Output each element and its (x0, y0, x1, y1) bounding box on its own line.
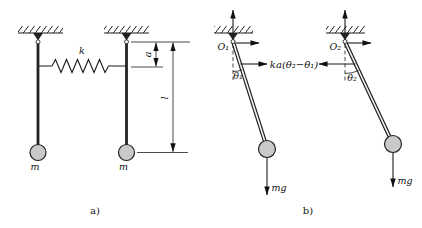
weight-right-label: mg (398, 175, 413, 186)
mass-right-b (385, 136, 402, 153)
pivot-pin-right-a (125, 40, 129, 44)
caption-b: b) (303, 205, 313, 216)
mass-left-b (259, 141, 276, 158)
hatch-left-a (18, 26, 63, 33)
figure-background (0, 0, 422, 228)
pivot-pin-right-b (343, 40, 347, 44)
mass-left-a (30, 145, 46, 161)
mass-right-label-a: m (119, 161, 128, 172)
dim-l-label: l (159, 96, 170, 99)
hatch-right-a (104, 26, 149, 33)
pivot-pin-left-b (231, 40, 235, 44)
weight-left-label: mg (272, 182, 287, 193)
angle-left-label: θ₁ (233, 70, 243, 81)
mass-right-a (119, 145, 135, 161)
angle-right-label: θ₂ (347, 72, 357, 83)
spring-force-label: ka(θ₂−θ₁) (270, 59, 318, 70)
caption-a: a) (90, 205, 100, 216)
figure-canvas: k m m a l a) O₁ (0, 0, 422, 228)
dim-a-label: a (142, 51, 153, 57)
pivot-right-label: O₂ (329, 41, 341, 52)
pivot-left-label: O₁ (217, 41, 229, 52)
pivot-pin-left-a (36, 40, 40, 44)
mass-left-label-a: m (30, 161, 39, 172)
spring-stiffness-label: k (79, 45, 85, 56)
